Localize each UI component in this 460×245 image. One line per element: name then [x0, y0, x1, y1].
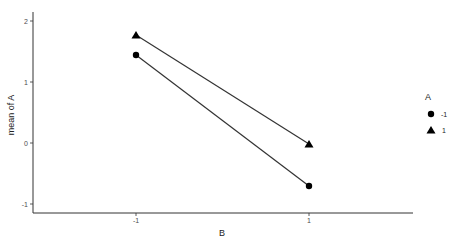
y-tick-label: 1 [24, 79, 28, 86]
triangle-marker-icon [305, 140, 314, 148]
triangle-icon [427, 126, 436, 134]
series-line-a-1 [136, 55, 309, 186]
triangle-marker-icon [132, 31, 141, 39]
interaction-plot: 2 1 0 -1 -1 1 B mean of A A -1 1 [0, 0, 460, 245]
x-tick-label: 1 [307, 217, 311, 224]
x-axis-title: B [219, 228, 225, 238]
y-tick-label: 2 [24, 18, 28, 25]
legend-label: 1 [442, 127, 446, 134]
y-tick-label: -1 [22, 201, 28, 208]
circle-marker-icon [133, 52, 139, 58]
circle-marker-icon [306, 183, 312, 189]
y-axis-title: mean of A [6, 95, 16, 136]
series [132, 31, 314, 189]
circle-icon [428, 111, 434, 117]
x-ticks: -1 1 [133, 213, 311, 224]
x-tick-label: -1 [133, 217, 139, 224]
y-ticks: 2 1 0 -1 [22, 18, 33, 208]
axes: 2 1 0 -1 -1 1 B mean of A [6, 12, 413, 238]
legend-label: -1 [441, 111, 447, 118]
legend: A -1 1 [425, 92, 447, 134]
legend-title: A [425, 92, 431, 102]
series-line-a1 [136, 35, 309, 144]
y-tick-label: 0 [24, 140, 28, 147]
